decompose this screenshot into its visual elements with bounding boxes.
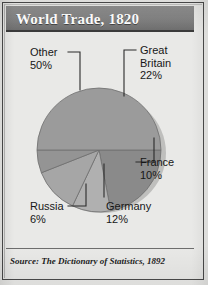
chart-title-banner: World Trade, 1820 bbox=[6, 6, 194, 32]
pie-label-great-britain-name2: Britain bbox=[140, 57, 171, 70]
pie-label-germany-value: 12% bbox=[106, 213, 151, 226]
source-caption: Source: The Dictionary of Statistics, 18… bbox=[10, 256, 165, 267]
pie-label-france-name: France bbox=[140, 156, 174, 168]
pie-label-other-name: Other bbox=[30, 46, 58, 58]
pie-label-russia-name: Russia bbox=[30, 200, 64, 212]
pie-slice-other[interactable] bbox=[37, 88, 161, 150]
chart-plot-area: Other 50% Great Britain 22% France 10% G… bbox=[6, 34, 194, 244]
leader-line-great-britain bbox=[124, 50, 136, 96]
pie-label-great-britain: Great Britain 22% bbox=[140, 44, 171, 82]
pie-label-other: Other 50% bbox=[30, 46, 58, 71]
pie-label-france: France 10% bbox=[140, 156, 174, 181]
pie-label-france-value: 10% bbox=[140, 169, 174, 182]
pie-label-germany-name: Germany bbox=[106, 200, 151, 212]
pie-label-russia: Russia 6% bbox=[30, 200, 64, 225]
pie-label-russia-value: 6% bbox=[30, 213, 64, 226]
page-title: World Trade, 1820 bbox=[16, 10, 139, 28]
source-divider bbox=[6, 248, 194, 249]
pie-label-germany: Germany 12% bbox=[106, 200, 151, 225]
pie-label-great-britain-value: 22% bbox=[140, 69, 171, 82]
leader-line-other bbox=[68, 52, 80, 90]
pie-label-great-britain-name: Great bbox=[140, 44, 168, 56]
chart-figure: World Trade, 1820 bbox=[0, 0, 208, 285]
pie-label-other-value: 50% bbox=[30, 59, 58, 72]
